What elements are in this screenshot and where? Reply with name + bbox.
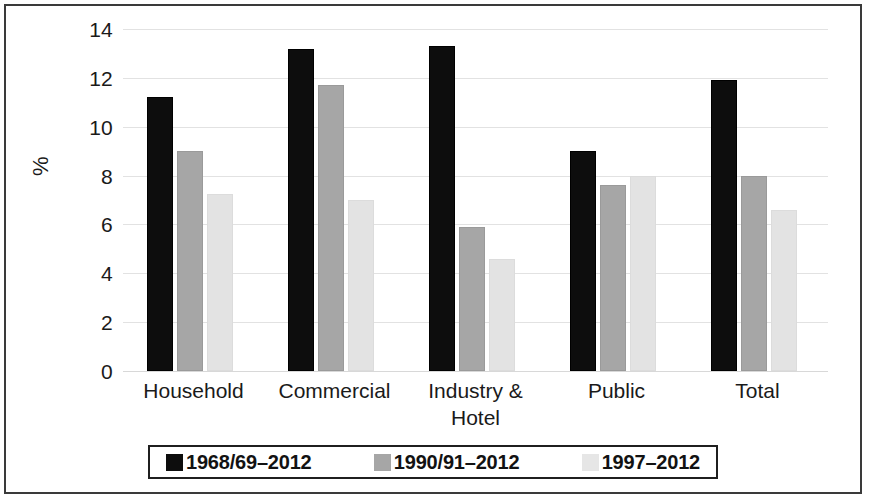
bar bbox=[288, 49, 314, 371]
bar-chart-figure: % 02468101214 HouseholdCommercialIndustr… bbox=[0, 0, 869, 500]
gray-swatch bbox=[374, 454, 391, 471]
black-swatch bbox=[166, 454, 183, 471]
y-axis-tick-label: 14 bbox=[89, 19, 113, 40]
bar-group bbox=[405, 29, 546, 371]
bar bbox=[489, 259, 515, 371]
bar bbox=[711, 80, 737, 371]
x-axis-category-label: Total bbox=[687, 378, 828, 405]
legend-label: 1990/91–2012 bbox=[394, 451, 520, 474]
bar bbox=[147, 97, 173, 371]
legend-item: 1968/69–2012 bbox=[166, 451, 312, 474]
bar bbox=[459, 227, 485, 371]
bar bbox=[741, 176, 767, 371]
legend-label: 1968/69–2012 bbox=[186, 451, 312, 474]
bar bbox=[177, 151, 203, 371]
y-axis-title: % bbox=[28, 156, 54, 176]
y-axis-tick-label: 10 bbox=[89, 116, 113, 137]
bar bbox=[630, 176, 656, 371]
y-axis-tick-label: 8 bbox=[101, 165, 113, 186]
x-axis-category-label: Public bbox=[546, 378, 687, 405]
legend-item: 1990/91–2012 bbox=[374, 451, 520, 474]
x-axis-category-label: Household bbox=[123, 378, 264, 405]
y-axis-tick-labels: 02468101214 bbox=[55, 29, 113, 371]
x-axis-category-label: Commercial bbox=[264, 378, 405, 405]
legend-label: 1997–2012 bbox=[602, 451, 700, 474]
y-axis-tick-label: 6 bbox=[101, 214, 113, 235]
bar bbox=[429, 46, 455, 371]
y-axis-tick-label: 12 bbox=[89, 67, 113, 88]
bar-group bbox=[123, 29, 264, 371]
y-axis-tick-label: 2 bbox=[101, 312, 113, 333]
bar-group bbox=[546, 29, 687, 371]
bar bbox=[771, 210, 797, 371]
x-axis-category-labels: HouseholdCommercialIndustry & HotelPubli… bbox=[123, 378, 828, 436]
light-gray-swatch bbox=[582, 454, 599, 471]
bar bbox=[600, 185, 626, 371]
plot-area bbox=[123, 29, 828, 371]
bar bbox=[318, 85, 344, 371]
chart-legend: 1968/69–20121990/91–20121997–2012 bbox=[148, 445, 718, 479]
bar bbox=[570, 151, 596, 371]
y-axis-tick-label: 0 bbox=[101, 361, 113, 382]
bar-group bbox=[264, 29, 405, 371]
bar bbox=[207, 194, 233, 371]
legend-item: 1997–2012 bbox=[582, 451, 700, 474]
y-axis-tick-label: 4 bbox=[101, 263, 113, 284]
bar bbox=[348, 200, 374, 371]
x-axis-category-label: Industry & Hotel bbox=[405, 378, 546, 432]
gridline bbox=[123, 371, 828, 372]
bar-group bbox=[687, 29, 828, 371]
